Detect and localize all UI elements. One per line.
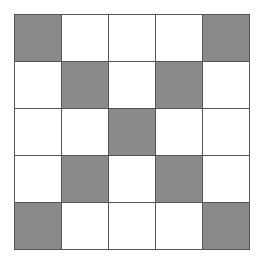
grid-cell-filled	[61, 155, 108, 202]
grid-cell-filled	[202, 14, 249, 61]
grid-cell-empty	[108, 61, 155, 108]
grid-cell-empty	[108, 155, 155, 202]
grid-cell-empty	[155, 202, 202, 249]
grid-cell-empty	[202, 61, 249, 108]
grid-cell-filled	[155, 61, 202, 108]
grid-cell-empty	[108, 202, 155, 249]
grid-cell-filled	[202, 202, 249, 249]
grid-cell-filled	[108, 108, 155, 155]
grid-cell-empty	[14, 155, 61, 202]
grid-cell-empty	[108, 14, 155, 61]
grid-cell-empty	[61, 14, 108, 61]
grid-cell-empty	[14, 108, 61, 155]
grid-cell-empty	[202, 108, 249, 155]
grid-cell-empty	[61, 202, 108, 249]
grid-cell-filled	[61, 61, 108, 108]
grid-cell-empty	[155, 108, 202, 155]
grid-board	[14, 14, 250, 250]
grid-cell-filled	[155, 155, 202, 202]
grid-cell-empty	[202, 155, 249, 202]
grid-cell-empty	[61, 108, 108, 155]
grid-cell-filled	[14, 202, 61, 249]
grid-cell-empty	[155, 14, 202, 61]
grid-cell-filled	[14, 14, 61, 61]
grid-cell-empty	[14, 61, 61, 108]
